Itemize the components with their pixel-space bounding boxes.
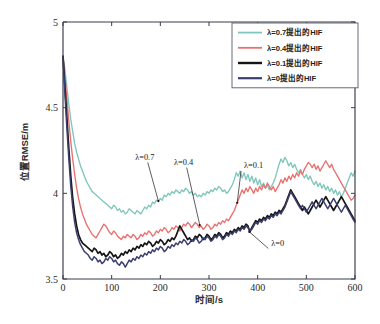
y-tick-label: 5 bbox=[53, 17, 58, 28]
legend-label-0[interactable]: λ=0.7提出的HIF bbox=[267, 27, 323, 37]
annotation-label: λ=0 bbox=[271, 239, 284, 248]
y-tick-label: 4.5 bbox=[46, 102, 59, 113]
x-tick-label: 0 bbox=[61, 282, 66, 293]
annotation-marker bbox=[236, 202, 238, 204]
x-tick-label: 200 bbox=[153, 282, 168, 293]
legend-label-1[interactable]: λ=0.4提出的HIF bbox=[267, 43, 323, 53]
rmse-line-chart: 01002003004005006003.544.55 λ=0.7λ=0.4λ=… bbox=[0, 0, 380, 324]
y-axis-title: 位置RMSE/m bbox=[19, 123, 30, 182]
annotation-label: λ=0.4 bbox=[174, 158, 194, 167]
x-axis-title: 时间/s bbox=[195, 294, 223, 305]
x-tick-label: 500 bbox=[299, 282, 314, 293]
x-tick-label: 600 bbox=[348, 282, 363, 293]
x-tick-label: 300 bbox=[202, 282, 217, 293]
legend-label-2[interactable]: λ=0.1提出的HIF bbox=[267, 58, 323, 68]
chart-figure: 01002003004005006003.544.55 λ=0.7λ=0.4λ=… bbox=[0, 0, 380, 324]
y-tick-label: 4 bbox=[53, 188, 58, 199]
annotation-marker bbox=[199, 224, 201, 226]
annotation-marker bbox=[157, 200, 159, 202]
x-tick-label: 100 bbox=[104, 282, 119, 293]
x-tick-label: 400 bbox=[250, 282, 265, 293]
annotation-label: λ=0.7 bbox=[135, 153, 154, 162]
y-tick-label: 3.5 bbox=[46, 274, 59, 285]
legend-label-3[interactable]: λ=0提出的HIF bbox=[267, 73, 316, 83]
annotation-label: λ=0.1 bbox=[244, 161, 263, 170]
legend[interactable]: λ=0.7提出的HIFλ=0.4提出的HIFλ=0.1提出的HIFλ=0提出的H… bbox=[232, 23, 358, 88]
annotation-marker bbox=[248, 231, 250, 233]
